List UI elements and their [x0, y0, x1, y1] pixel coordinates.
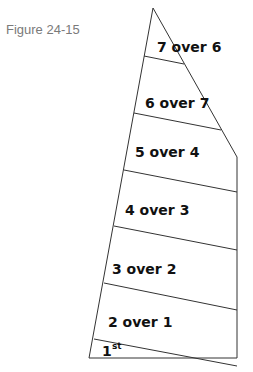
panel-label: 2 over 1 [108, 314, 172, 330]
panel-label: 1 [102, 343, 112, 359]
seam-line [144, 56, 184, 64]
panel-label: 6 over 7 [145, 95, 209, 111]
panel-label: 4 over 3 [125, 202, 189, 218]
seam-line [114, 226, 237, 250]
panel-label: 7 over 6 [157, 39, 221, 55]
seam-line [104, 283, 237, 310]
sail-diagram: 7 over 6 6 over 7 5 over 4 4 over 3 3 ov… [0, 0, 253, 372]
panel-label-superscript: st [112, 341, 122, 351]
seam-line [134, 113, 221, 130]
panel-label: 3 over 2 [112, 261, 176, 277]
seam-line [124, 170, 237, 192]
panel-label: 5 over 4 [135, 144, 200, 160]
